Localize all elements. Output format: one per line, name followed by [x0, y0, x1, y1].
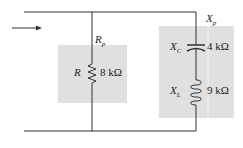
xp-label: Xp — [206, 12, 216, 27]
rp-label: Rp — [95, 33, 105, 48]
xl-label: XL — [170, 84, 181, 99]
xc-label: XC — [170, 40, 181, 55]
r-value: 8 kΩ — [100, 66, 122, 78]
xc-value: 4 kΩ — [207, 40, 229, 52]
xl-value: 9 kΩ — [207, 84, 229, 96]
arrow-head-icon — [36, 26, 42, 31]
r-symbol: R — [74, 66, 81, 78]
